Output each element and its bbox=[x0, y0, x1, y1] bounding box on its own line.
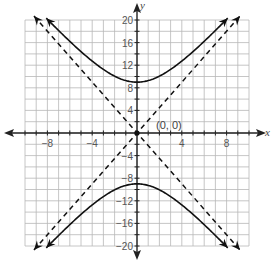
y-tick-label: 16 bbox=[122, 38, 134, 49]
y-tick-label: 20 bbox=[122, 15, 134, 26]
x-tick-label: −8 bbox=[42, 138, 54, 149]
y-tick-label: −16 bbox=[116, 218, 133, 229]
origin-point bbox=[134, 130, 139, 135]
y-tick-label: −8 bbox=[122, 173, 134, 184]
x-tick-label: −4 bbox=[86, 138, 98, 149]
origin-label: (0, 0) bbox=[156, 119, 182, 131]
x-tick-label: 8 bbox=[224, 138, 230, 149]
y-tick-label: 8 bbox=[127, 83, 133, 94]
y-tick-label: 12 bbox=[122, 60, 134, 71]
y-tick-label: −12 bbox=[116, 196, 133, 207]
y-tick-label: −4 bbox=[122, 151, 134, 162]
y-tick-label: 4 bbox=[127, 105, 133, 116]
x-tick-label: 4 bbox=[179, 138, 185, 149]
y-axis-label: y bbox=[139, 0, 145, 11]
y-tick-label: −20 bbox=[116, 241, 133, 252]
x-axis-label: x bbox=[264, 126, 270, 138]
hyperbola-graph: −8−44820161284−4−8−12−16−20 x y (0, 0) bbox=[0, 0, 274, 262]
